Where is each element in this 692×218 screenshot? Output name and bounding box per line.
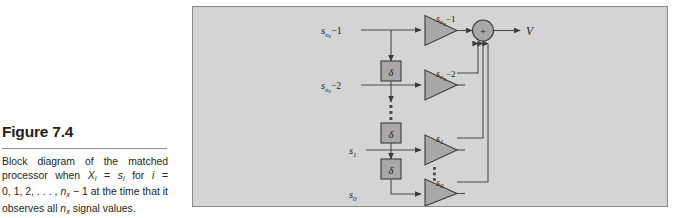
caption-equals-1: =	[96, 170, 117, 181]
summation-bus-group	[457, 44, 488, 183]
caption-line4-pre: observes all	[2, 203, 60, 214]
caption-equals-2: =	[154, 170, 168, 181]
row-4-input-label: s0	[349, 189, 357, 203]
row-2-group: δ snx−2 snx−2	[321, 61, 465, 102]
caption-line1-text: Block diagram of the matched	[2, 156, 168, 167]
caption-index-list: 0, 1, 2, . . . ,	[2, 186, 60, 197]
row-4-input-wire	[391, 179, 421, 194]
block-diagram-panel: snx−1 snx−1 + V	[192, 6, 668, 207]
row-4-group: δ s0 s0	[349, 159, 465, 206]
bus-wire-row-2	[457, 44, 478, 74]
caption-var-X: X	[88, 170, 95, 181]
caption-line-2: processor when Xi = si for i =	[2, 169, 168, 186]
output-label: V	[526, 25, 535, 37]
bus-wire-row-3	[457, 44, 483, 139]
block-diagram-svg: snx−1 snx−1 + V	[193, 7, 667, 206]
row-3-group: δ s1 s1	[349, 123, 465, 165]
caption-line-4: observes all nx signal values.	[2, 202, 168, 218]
caption-divider	[2, 148, 167, 149]
caption-line4-rest: signal values.	[70, 203, 136, 214]
figure-title: Figure 7.4	[2, 123, 73, 141]
caption-line3-rest: − 1 at the time that it	[70, 186, 168, 197]
summing-junction-group: + V	[473, 20, 536, 41]
row-1-group: snx−1 snx−1	[321, 13, 472, 61]
caption-line-3: 0, 1, 2, . . . , nx − 1 at the time that…	[2, 185, 168, 202]
row-2-input-label: snx−2	[321, 80, 341, 94]
row-1-input-label: snx−1	[321, 24, 342, 39]
caption-line-1: Block diagram of the matched	[2, 155, 168, 169]
caption-for-word: for	[125, 170, 152, 181]
chain-vertical-ellipsis	[389, 105, 392, 120]
figure-caption-text: Block diagram of the matched processor w…	[2, 155, 168, 218]
row-3-input-label: s1	[349, 145, 357, 159]
figure-caption-column: Figure 7.4 Block diagram of the matched …	[0, 0, 172, 218]
summing-junction-plus: +	[480, 25, 486, 37]
caption-line2-pre: processor when	[2, 170, 88, 181]
